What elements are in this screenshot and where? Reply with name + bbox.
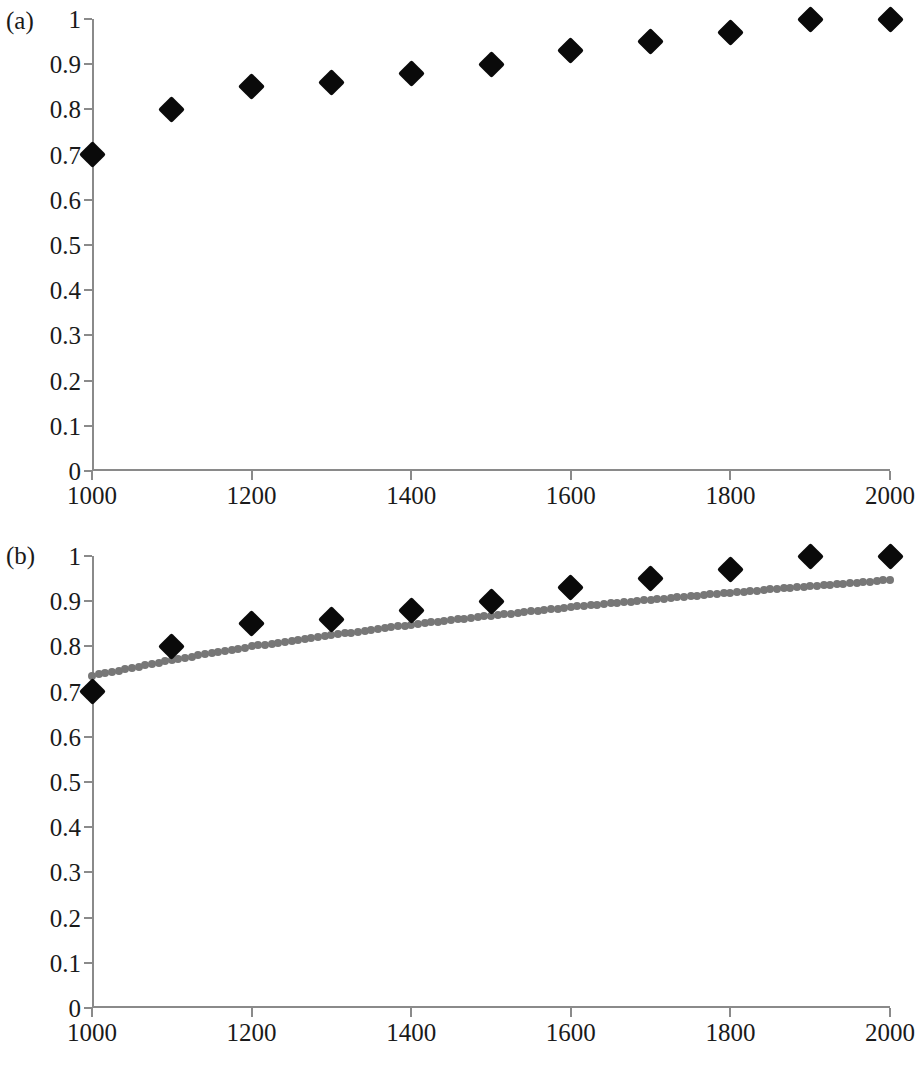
data-point-marker xyxy=(877,6,904,33)
panel-a-label: (a) xyxy=(6,8,34,33)
y-tick-b xyxy=(84,871,92,873)
y-tick-label-b: 0.8 xyxy=(50,634,81,659)
x-axis-line-a xyxy=(92,469,890,471)
x-tick-label-b: 1000 xyxy=(67,1020,117,1045)
y-tick-b xyxy=(84,781,92,783)
y-tick-label-b: 0.5 xyxy=(50,770,81,795)
data-point-marker xyxy=(877,543,904,570)
y-tick-label-b: 0.6 xyxy=(50,724,81,749)
plot-area-a: 00.10.20.30.40.50.60.70.80.9110001200140… xyxy=(92,19,890,471)
y-tick-a xyxy=(84,425,92,427)
x-tick-b xyxy=(410,1008,412,1017)
y-tick-label-a: 0.6 xyxy=(50,187,81,212)
x-tick-label-b: 1200 xyxy=(227,1020,277,1045)
y-tick-label-b: 0.7 xyxy=(50,679,81,704)
y-tick-a xyxy=(84,63,92,65)
x-tick-label-a: 1000 xyxy=(67,483,117,508)
y-axis-line-a xyxy=(92,19,94,471)
x-axis-line-b xyxy=(92,1006,890,1008)
x-tick-label-b: 1400 xyxy=(386,1020,436,1045)
y-tick-label-b: 0.9 xyxy=(50,589,81,614)
x-tick-b xyxy=(91,1008,93,1017)
data-point-marker xyxy=(557,574,584,601)
y-tick-b xyxy=(84,645,92,647)
y-tick-label-a: 0.3 xyxy=(50,323,81,348)
data-point-marker xyxy=(797,543,824,570)
plot-area-b: 00.10.20.30.40.50.60.70.80.9110001200140… xyxy=(92,556,890,1008)
y-tick-b xyxy=(84,600,92,602)
data-point-marker xyxy=(717,556,744,583)
panel-a: (a) 00.10.20.30.40.50.60.70.80.911000120… xyxy=(0,0,914,520)
y-tick-label-b: 1 xyxy=(69,544,82,569)
data-point-marker xyxy=(637,565,664,592)
y-tick-label-a: 0.9 xyxy=(50,52,81,77)
y-tick-label-a: 1 xyxy=(69,7,82,32)
x-tick-label-b: 1600 xyxy=(546,1020,596,1045)
x-tick-label-a: 1600 xyxy=(546,483,596,508)
x-tick-b xyxy=(570,1008,572,1017)
y-tick-label-a: 0.4 xyxy=(50,278,81,303)
y-tick-label-b: 0.1 xyxy=(50,950,81,975)
y-tick-a xyxy=(84,108,92,110)
y-tick-label-b: 0 xyxy=(69,996,82,1021)
y-tick-label-a: 0.5 xyxy=(50,233,81,258)
x-tick-a xyxy=(570,471,572,480)
y-tick-label-a: 0.7 xyxy=(50,142,81,167)
data-point-marker xyxy=(318,69,345,96)
y-tick-label-b: 0.2 xyxy=(50,905,81,930)
data-point-marker xyxy=(238,73,265,100)
data-point-marker xyxy=(79,678,106,705)
data-point-marker xyxy=(637,28,664,55)
data-point-marker xyxy=(478,51,505,78)
y-tick-label-a: 0 xyxy=(69,459,82,484)
y-tick-label-a: 0.8 xyxy=(50,97,81,122)
y-tick-label-a: 0.2 xyxy=(50,368,81,393)
y-tick-a xyxy=(84,18,92,20)
panel-b-label: (b) xyxy=(6,543,35,568)
y-tick-a xyxy=(84,334,92,336)
data-point-marker xyxy=(557,37,584,64)
data-point-marker xyxy=(398,597,425,624)
data-point-marker xyxy=(797,6,824,33)
x-tick-b xyxy=(889,1008,891,1017)
panel-b: (b) 00.10.20.30.40.50.60.70.80.911000120… xyxy=(0,533,914,1083)
y-tick-label-a: 0.1 xyxy=(50,413,81,438)
x-tick-label-a: 1200 xyxy=(227,483,277,508)
y-tick-a xyxy=(84,380,92,382)
x-tick-a xyxy=(91,471,93,480)
x-tick-label-a: 1800 xyxy=(705,483,755,508)
x-tick-label-b: 1800 xyxy=(705,1020,755,1045)
y-tick-label-b: 0.3 xyxy=(50,860,81,885)
data-point-marker xyxy=(398,60,425,87)
y-tick-a xyxy=(84,199,92,201)
x-tick-a xyxy=(729,471,731,480)
x-tick-a xyxy=(410,471,412,480)
data-point-marker xyxy=(79,141,106,168)
y-tick-b xyxy=(84,826,92,828)
y-tick-b xyxy=(84,555,92,557)
y-tick-label-b: 0.4 xyxy=(50,815,81,840)
x-tick-b xyxy=(729,1008,731,1017)
trendline-dot-b xyxy=(886,576,894,584)
y-tick-b xyxy=(84,917,92,919)
y-tick-b xyxy=(84,962,92,964)
x-tick-label-a: 1400 xyxy=(386,483,436,508)
x-tick-label-b: 2000 xyxy=(865,1020,915,1045)
y-tick-a xyxy=(84,289,92,291)
y-axis-line-b xyxy=(92,556,94,1008)
x-tick-a xyxy=(889,471,891,480)
x-tick-label-a: 2000 xyxy=(865,483,915,508)
data-point-marker xyxy=(717,19,744,46)
x-tick-b xyxy=(251,1008,253,1017)
y-tick-b xyxy=(84,736,92,738)
data-point-marker xyxy=(158,96,185,123)
y-tick-a xyxy=(84,244,92,246)
x-tick-a xyxy=(251,471,253,480)
data-point-marker xyxy=(318,606,345,633)
data-point-marker xyxy=(238,610,265,637)
